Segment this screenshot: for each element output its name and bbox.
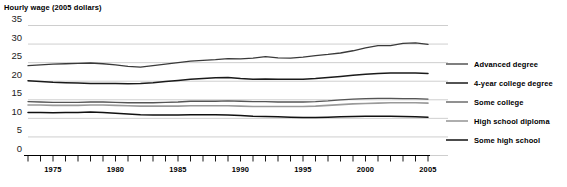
series-line-2: [28, 98, 428, 102]
line-chart-plot: 05101520253035 1975198019851990199520002…: [0, 0, 567, 187]
x-tick-label: 1985: [169, 165, 187, 174]
y-tick-label: 15: [11, 87, 22, 98]
y-tick-label: 25: [11, 50, 22, 61]
x-tick-label: 1980: [107, 165, 125, 174]
y-tick-label: 10: [11, 106, 22, 117]
x-axis-tick-labels: 1975198019851990199520002005: [44, 165, 437, 174]
legend: Advanced degree4-year college degreeSome…: [446, 60, 553, 145]
x-tick-label: 1975: [44, 165, 62, 174]
legend-label-0: Advanced degree: [474, 60, 538, 69]
series-lines: [28, 43, 428, 118]
series-line-1: [28, 73, 428, 84]
legend-label-2: Some college: [474, 98, 524, 107]
x-tick-label: 1990: [232, 165, 250, 174]
chart-container: Hourly wage (2005 dollars) 0510152025303…: [0, 0, 567, 187]
x-tick-label: 1995: [294, 165, 312, 174]
legend-label-4: Some high school: [474, 136, 540, 145]
y-axis-tick-labels: 05101520253035: [11, 13, 22, 154]
x-tick-label: 2005: [419, 165, 437, 174]
y-tick-label: 5: [17, 124, 22, 135]
y-tick-label: 20: [11, 69, 22, 80]
x-axis: [24, 156, 430, 162]
series-line-0: [28, 43, 428, 67]
series-line-3: [28, 103, 428, 107]
legend-label-1: 4-year college degree: [474, 79, 553, 88]
legend-label-3: High school diploma: [474, 117, 550, 126]
x-tick-label: 2000: [357, 165, 375, 174]
y-tick-label: 35: [11, 13, 22, 24]
series-line-4: [28, 112, 428, 118]
y-tick-label: 30: [11, 32, 22, 43]
y-tick-label: 0: [17, 143, 22, 154]
